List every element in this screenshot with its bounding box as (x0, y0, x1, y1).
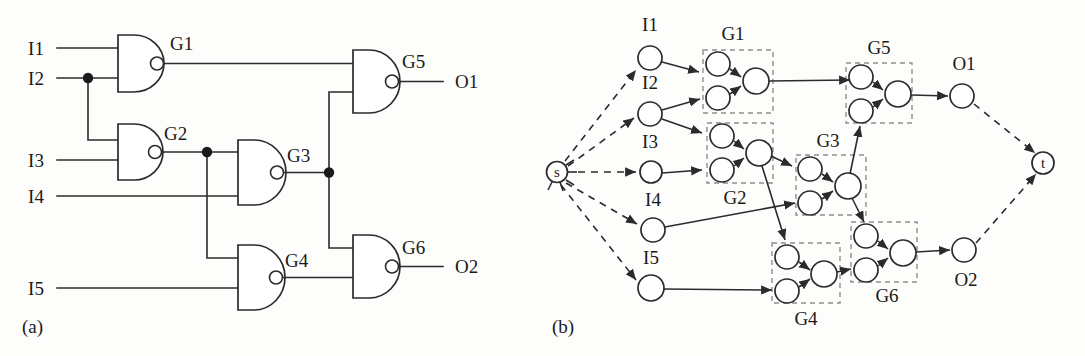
caption-panel-a: (a) (22, 316, 43, 338)
label-a-o2: O2 (455, 256, 478, 277)
g5-node-out[interactable] (885, 81, 911, 107)
label-b-g1: G1 (721, 23, 744, 44)
label-a-i5: I5 (28, 278, 44, 299)
label-a-i1: I1 (28, 38, 44, 59)
g3-node-in1[interactable] (798, 157, 822, 181)
g2-node-in2[interactable] (710, 158, 734, 182)
graph-node-o1[interactable] (950, 84, 974, 108)
label-b-i1: I1 (642, 14, 658, 35)
g1-node-out[interactable] (743, 68, 769, 94)
label-a-g3: G3 (287, 145, 310, 166)
g4-node-in2[interactable] (775, 279, 799, 303)
g6-node-in1[interactable] (854, 224, 878, 248)
label-a-g4: G4 (285, 250, 309, 271)
label-b-i3: I3 (642, 131, 658, 152)
cluster-g4[interactable] (772, 243, 840, 303)
label-b-g5: G5 (867, 37, 890, 58)
g2-node-in1[interactable] (710, 124, 734, 148)
gate-g4[interactable] (238, 245, 285, 310)
graph-node-o2[interactable] (952, 238, 976, 262)
label-a-g1: G1 (170, 33, 193, 54)
label-a-g6: G6 (402, 237, 425, 258)
label-b-g3: G3 (816, 130, 839, 151)
g6-output-bubble (386, 260, 399, 273)
label-b-g2: G2 (723, 187, 746, 208)
g4-node-in1[interactable] (775, 245, 799, 269)
label-b-o2: O2 (954, 269, 977, 290)
gate-g1[interactable] (118, 35, 164, 92)
label-b-i2: I2 (642, 72, 658, 93)
graph-node-i4[interactable] (641, 218, 665, 242)
g5-node-in2[interactable] (849, 99, 873, 123)
graph-node-i1[interactable] (638, 46, 662, 70)
i2-fanout-wire (83, 73, 118, 140)
junction-dot-g3 (324, 167, 334, 177)
junction-dot-g2 (202, 147, 212, 157)
graph-node-i2[interactable] (638, 102, 662, 126)
g6-node-in2[interactable] (854, 258, 878, 282)
cluster-g1[interactable] (703, 50, 773, 113)
g3-node-out[interactable] (835, 173, 861, 199)
sink-edges (974, 104, 1036, 243)
label-a-g2: G2 (164, 123, 187, 144)
g1-node-in2[interactable] (706, 86, 730, 110)
figure-container: I1 I2 I3 I4 I5 G1 G2 G3 G4 G5 G6 O1 O2 (… (0, 0, 1085, 356)
label-b-i5: I5 (643, 247, 659, 268)
label-b-i4: I4 (645, 189, 661, 210)
g3-output-fanout (284, 92, 353, 248)
gate-g6[interactable] (353, 235, 400, 298)
label-b-g6: G6 (875, 285, 898, 306)
label-b-o1: O1 (952, 53, 975, 74)
gate-g2[interactable] (118, 124, 163, 180)
g3-node-in2[interactable] (798, 191, 822, 215)
gate-g3[interactable] (238, 140, 286, 205)
cluster-g2[interactable] (707, 123, 773, 183)
caption-panel-b: (b) (552, 316, 574, 338)
g2-output-fanout (162, 147, 238, 258)
label-b-g4: G4 (794, 308, 818, 329)
label-a-i2: I2 (28, 68, 44, 89)
g5-output-bubble (386, 75, 399, 88)
g4-node-out[interactable] (811, 261, 837, 287)
g1-node-in1[interactable] (706, 52, 730, 76)
g6-node-out[interactable] (890, 240, 916, 266)
cluster-g5[interactable] (846, 63, 912, 123)
g2-node-out[interactable] (746, 140, 772, 166)
g3-output-bubble (271, 166, 284, 179)
g2-output-bubble (149, 146, 162, 159)
node-label-s: s (554, 164, 560, 180)
panel-b-graph: s t (540, 0, 1085, 356)
label-a-g5: G5 (402, 51, 425, 72)
g5-node-in1[interactable] (849, 65, 873, 89)
panel-a-schematic: I1 I2 I3 I4 I5 G1 G2 G3 G4 G5 G6 O1 O2 (… (0, 0, 540, 356)
junction-dot-i2 (83, 73, 93, 83)
graph-node-t[interactable]: t (1032, 152, 1054, 174)
g1-output-bubble (151, 57, 164, 70)
g4-output-bubble (270, 271, 283, 284)
source-edges (561, 70, 637, 280)
graph-node-i5[interactable] (638, 275, 664, 301)
label-a-i4: I4 (28, 186, 44, 207)
gate-g5[interactable] (353, 50, 400, 113)
cluster-g6[interactable] (851, 222, 917, 282)
label-a-i3: I3 (28, 150, 44, 171)
graph-node-i3[interactable] (640, 161, 662, 183)
label-a-o1: O1 (455, 71, 478, 92)
